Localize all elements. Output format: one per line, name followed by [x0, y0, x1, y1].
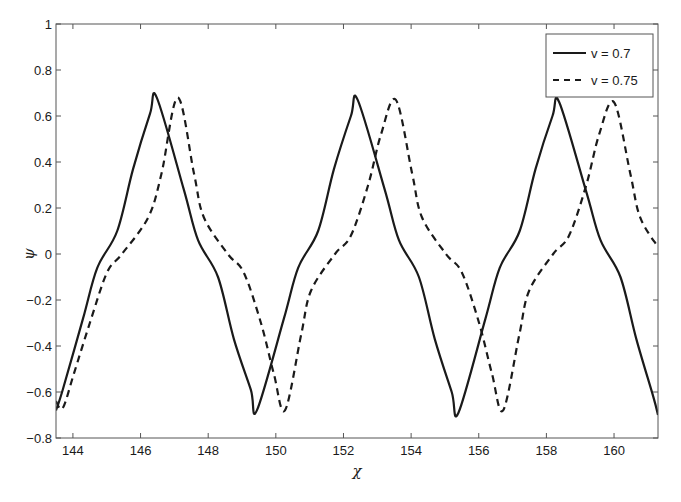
- y-tick-label: 0.8: [34, 63, 52, 78]
- x-tick-label: 146: [130, 443, 152, 458]
- y-tick-label: −0.4: [26, 339, 52, 354]
- legend-label-dashed: v = 0.75: [591, 73, 638, 88]
- y-axis-label: ψ: [20, 248, 38, 260]
- x-tick-label: 152: [333, 443, 355, 458]
- y-tick-label: 0: [45, 247, 52, 262]
- y-tick-label: 0.6: [34, 109, 52, 124]
- x-tick-label: 156: [468, 443, 490, 458]
- x-tick-label: 148: [197, 443, 219, 458]
- series-layer: [56, 93, 658, 416]
- legend: v = 0.7 v = 0.75: [546, 34, 653, 97]
- x-tick-label: 144: [62, 443, 84, 458]
- x-axis-label: χ: [351, 462, 362, 480]
- y-tick-label: 0.2: [34, 201, 52, 216]
- legend-label-solid: v = 0.7: [591, 46, 630, 61]
- x-tick-label: 160: [603, 443, 625, 458]
- series-line-v075: [56, 98, 658, 412]
- y-tick-label: 0.4: [34, 155, 52, 170]
- x-tick-label: 154: [400, 443, 422, 458]
- x-axis-ticks: 144146148150152154156158160: [62, 24, 625, 458]
- y-tick-label: −0.8: [26, 431, 52, 446]
- series-line-v07: [56, 93, 658, 416]
- line-chart: 144146148150152154156158160 −0.8−0.6−0.4…: [0, 0, 681, 502]
- y-tick-label: −0.2: [26, 293, 52, 308]
- y-tick-label: 1: [45, 17, 52, 32]
- y-tick-label: −0.6: [26, 385, 52, 400]
- x-tick-label: 158: [536, 443, 558, 458]
- x-tick-label: 150: [265, 443, 287, 458]
